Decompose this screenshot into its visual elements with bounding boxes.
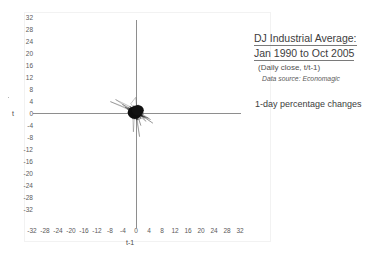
annotation-subtitle: (Daily close, t/t-1): [258, 63, 320, 72]
y-tick-label: -12: [13, 146, 33, 153]
y-tick-label: -28: [13, 194, 33, 201]
x-axis-label: t-1: [126, 239, 134, 246]
y-tick-label: 8: [13, 86, 33, 93]
y-tick-label: -32: [13, 206, 33, 213]
y-tick-label: 32: [13, 14, 33, 21]
x-tick-label: 32: [230, 227, 250, 234]
annotation-note: 1-day percentage changes: [255, 99, 362, 109]
annotation-data-source: Data source: Economagic: [262, 75, 340, 82]
y-tick-label: -24: [13, 182, 33, 189]
annotation-title-line1: DJ Industrial Average:: [254, 32, 357, 46]
y-tick-label: 20: [13, 50, 33, 57]
chart-figure: 322824201612840-4-8-12-16-20-24-28-32 -3…: [0, 0, 377, 256]
y-tick-label: 0: [13, 110, 33, 117]
y-tick-label: 16: [13, 62, 33, 69]
dense-core-secondary: [132, 105, 144, 115]
y-axis-label: t: [12, 110, 14, 117]
y-tick-label: 4: [13, 98, 33, 105]
y-tick-label: 12: [13, 74, 33, 81]
annotation-title-line2: Jan 1990 to Oct 2005: [254, 47, 354, 61]
y-tick-label: 24: [13, 38, 33, 45]
y-tick-label: -16: [13, 158, 33, 165]
y-tick-label: 28: [13, 26, 33, 33]
y-tick-label: -4: [13, 122, 33, 129]
y-tick-label: -8: [13, 134, 33, 141]
y-tick-label: -20: [13, 170, 33, 177]
